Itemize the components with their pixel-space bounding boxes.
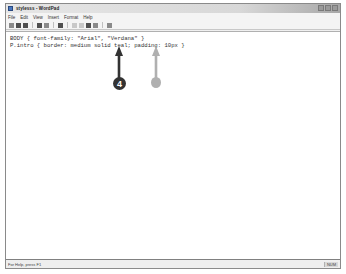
callout-number: 4 [117,79,122,89]
toolbar-separator [102,22,103,28]
callout-badge-4: 4 [113,77,126,90]
menu-help[interactable]: Help [83,15,92,20]
cut-icon[interactable] [72,23,77,28]
toolbar-separator [32,22,33,28]
minimize-button[interactable] [318,5,324,11]
copy-icon[interactable] [79,23,84,28]
menu-format[interactable]: Format [64,15,78,20]
new-document-icon[interactable] [9,23,14,28]
wordpad-window: stylesss - WordPad File Edit View Insert… [5,3,341,269]
toolbar-separator [53,22,54,28]
window-controls [318,5,338,11]
toolbar [6,21,340,30]
paste-icon[interactable] [86,23,91,28]
close-button[interactable] [332,5,338,11]
menu-file[interactable]: File [8,15,15,20]
document-editor[interactable]: BODY { font-family: "Arial", "Verdana" }… [6,31,340,260]
maximize-button[interactable] [325,5,331,11]
status-bar: For Help, press F1 NUM [6,260,340,268]
print-preview-icon[interactable] [44,23,49,28]
undo-icon[interactable] [93,23,98,28]
print-icon[interactable] [37,23,42,28]
toolbar-separator [67,22,68,28]
menu-edit[interactable]: Edit [20,15,28,20]
document-line-1: BODY { font-family: "Arial", "Verdana" } [10,35,144,42]
date-time-icon[interactable] [107,23,112,28]
status-help-text: For Help, press F1 [8,262,41,267]
menu-insert[interactable]: Insert [48,15,59,20]
status-num-lock: NUM [324,262,338,267]
wordpad-app-icon [8,6,13,11]
open-folder-icon[interactable] [16,23,21,28]
menu-view[interactable]: View [33,15,43,20]
window-title: stylesss - WordPad [16,6,59,11]
title-bar: stylesss - WordPad [6,4,340,13]
menu-bar: File Edit View Insert Format Help [6,13,340,21]
save-icon[interactable] [23,23,28,28]
callout-badge-light [151,77,161,88]
find-icon[interactable] [58,23,63,28]
